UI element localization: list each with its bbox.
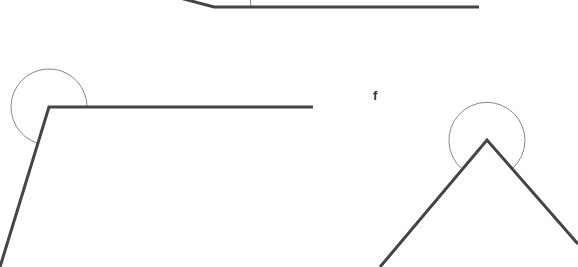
angle-label-f: f xyxy=(373,88,377,103)
geometry-diagram xyxy=(0,0,578,267)
angle-arc xyxy=(449,102,525,169)
right-angle xyxy=(380,102,578,267)
angle-rays xyxy=(380,140,578,267)
left-angle xyxy=(0,69,313,267)
angle-rays xyxy=(180,0,479,7)
angle-rays xyxy=(0,107,313,267)
top-angle xyxy=(180,0,479,7)
